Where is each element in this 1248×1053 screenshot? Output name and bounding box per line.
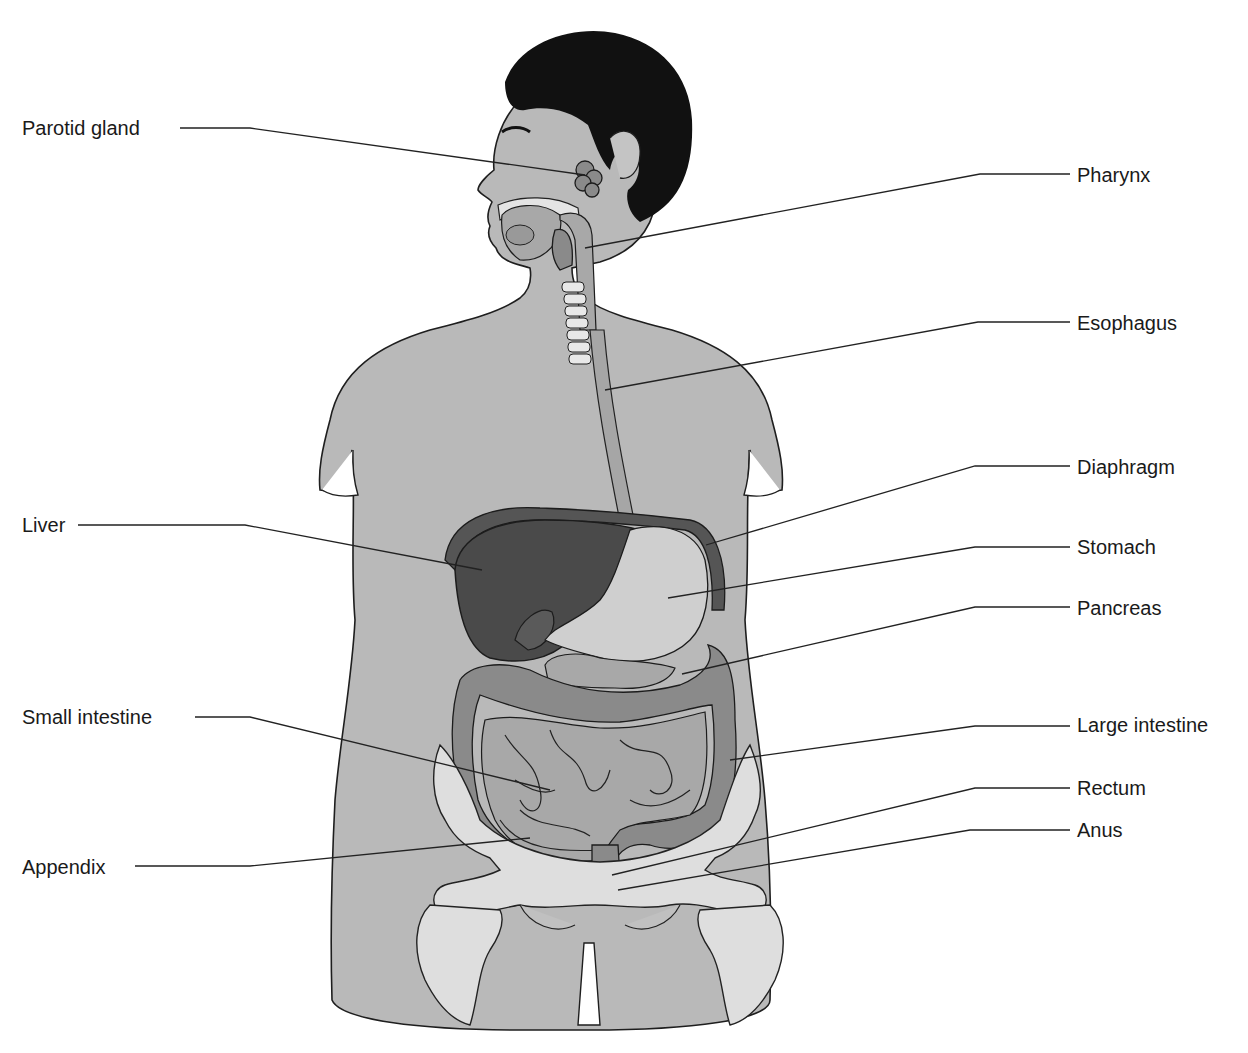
- label-liver: Liver: [22, 515, 65, 535]
- label-parotid-gland: Parotid gland: [22, 118, 140, 138]
- label-small-intestine: Small intestine: [22, 707, 152, 727]
- label-diaphragm: Diaphragm: [1077, 457, 1175, 477]
- label-rectum: Rectum: [1077, 778, 1146, 798]
- leader-large-intestine: [730, 726, 1070, 760]
- label-stomach: Stomach: [1077, 537, 1156, 557]
- label-large-intestine: Large intestine: [1077, 715, 1208, 735]
- label-pharynx: Pharynx: [1077, 165, 1150, 185]
- digestive-system-diagram: [0, 0, 1248, 1053]
- label-anus: Anus: [1077, 820, 1123, 840]
- label-appendix: Appendix: [22, 857, 105, 877]
- label-pancreas: Pancreas: [1077, 598, 1162, 618]
- label-esophagus: Esophagus: [1077, 313, 1177, 333]
